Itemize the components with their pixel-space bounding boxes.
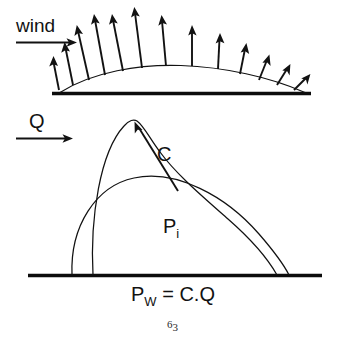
undeformed-dome-curve — [72, 176, 289, 275]
pressure-arrow-4 — [91, 14, 105, 75]
deformed-shape-curve — [92, 120, 277, 275]
equation-remainder: = C.Q — [157, 283, 215, 305]
pressure-arrow-13 — [294, 74, 310, 90]
balloon-deformation-panel: C Pi Q PW = C.Q — [16, 110, 322, 309]
pressure-arrow-11 — [259, 55, 271, 81]
internal-pressure-base: P — [163, 215, 176, 237]
pressure-arrow-1 — [49, 56, 59, 90]
pressure-arrow-7 — [158, 15, 167, 66]
internal-pressure-label: Pi — [163, 215, 179, 241]
pressure-arrow-3 — [74, 25, 89, 80]
pressure-arrow-5 — [109, 14, 123, 71]
flow-arrow-q — [16, 134, 73, 143]
displacement-label-c: C — [157, 143, 171, 165]
flow-label-q: Q — [29, 110, 45, 132]
diagram-svg: wind C Pi Q PW = C.Q 63 — [0, 0, 347, 346]
equation-base: P — [131, 283, 144, 305]
wind-pressure-equation: PW = C.Q — [131, 283, 215, 309]
diagram-canvas: wind C Pi Q PW = C.Q 63 — [0, 0, 347, 346]
pressure-arrow-10 — [240, 43, 249, 74]
pressure-arrow-12 — [277, 64, 290, 85]
page-number: 63 — [167, 318, 179, 333]
wind-label: wind — [15, 15, 55, 36]
wind-arrow — [16, 38, 77, 47]
page-number-sub: 3 — [173, 321, 179, 333]
equation-subscript: W — [144, 294, 157, 309]
wind-pressure-panel: wind — [15, 7, 311, 94]
upper-dome-curve — [60, 65, 305, 92]
pressure-arrow-2 — [61, 42, 73, 85]
pressure-arrow-6 — [131, 7, 142, 68]
internal-pressure-subscript: i — [176, 226, 179, 241]
pressure-arrow-group — [49, 7, 310, 90]
pressure-arrow-9 — [216, 33, 225, 69]
pressure-arrow-8 — [188, 25, 196, 66]
